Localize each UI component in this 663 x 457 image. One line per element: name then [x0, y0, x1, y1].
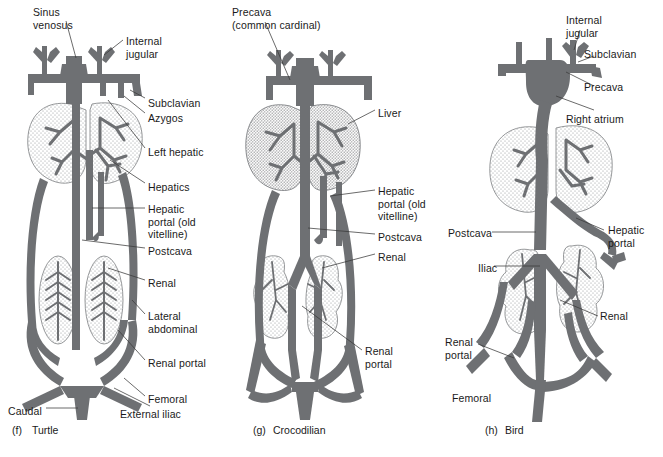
label-turtle-lateral-abdominal: Lateral abdominal: [148, 310, 197, 335]
label-crocodilian-liver: Liver: [378, 107, 401, 120]
caption-bird: (h)Bird: [485, 424, 524, 436]
label-crocodilian-postcava: Postcava: [378, 231, 422, 244]
venous-system-figure: [0, 0, 663, 457]
croc-vessels: [246, 50, 372, 420]
panel-turtle: [22, 21, 150, 420]
label-bird-renal-portal: Renal portal: [445, 336, 473, 361]
label-turtle-hepatics: Hepatics: [148, 181, 190, 194]
caption-name-crocodilian: Crocodilian: [273, 424, 326, 436]
caption-name-bird: Bird: [505, 424, 524, 436]
caption-turtle: (f)Turtle: [12, 424, 58, 436]
label-turtle-renal: Renal: [148, 277, 176, 290]
label-crocodilian-precava: Precava (common cardinal): [232, 6, 321, 31]
label-turtle-subclavian: Subclavian: [148, 97, 200, 110]
caption-tag-crocodilian: (g): [253, 424, 273, 436]
label-bird-subclavian: Subclavian: [584, 48, 636, 61]
label-crocodilian-renal: Renal: [378, 251, 406, 264]
label-turtle-caudal: Caudal: [8, 405, 42, 418]
label-bird-internal-jugular: Internal jugular: [566, 14, 602, 39]
turtle-liver: [28, 103, 142, 184]
panel-crocodilian: [246, 22, 375, 420]
caption-tag-bird: (h): [485, 424, 505, 436]
label-bird-right-atrium: Right atrium: [566, 113, 624, 126]
label-turtle-left-hepatic: Left hepatic: [148, 146, 204, 159]
label-crocodilian-hepatic-portal: Hepatic portal (old vitelline): [378, 185, 426, 223]
label-bird-renal: Renal: [600, 310, 628, 323]
label-turtle-sinus-venosus: Sinus venosus: [33, 6, 73, 31]
label-turtle-internal-jugular: Internal jugular: [126, 35, 162, 60]
caption-name-turtle: Turtle: [32, 424, 58, 436]
label-bird-postcava: Postcava: [448, 227, 492, 240]
caption-tag-turtle: (f): [12, 424, 32, 436]
label-crocodilian-renal-portal: Renal portal: [365, 345, 393, 370]
label-turtle-renal-portal: Renal portal: [148, 357, 206, 370]
label-turtle-external-iliac: External iliac: [120, 408, 181, 421]
turtle-vessels: [22, 46, 142, 420]
turtle-kidneys: [39, 256, 123, 344]
label-turtle-hepatic-portal: Hepatic portal (old vitelline): [148, 203, 196, 241]
label-turtle-postcava: Postcava: [148, 245, 192, 258]
caption-crocodilian: (g)Crocodilian: [253, 424, 326, 436]
label-bird-hepatic-portal: Hepatic portal: [608, 224, 644, 249]
label-turtle-azygos: Azygos: [148, 112, 183, 125]
label-bird-precava: Precava: [584, 81, 623, 94]
label-bird-femoral: Femoral: [452, 392, 491, 405]
label-turtle-femoral: Femoral: [148, 393, 187, 406]
label-bird-iliac: Iliac: [478, 262, 497, 275]
bird-liver: [490, 126, 612, 213]
